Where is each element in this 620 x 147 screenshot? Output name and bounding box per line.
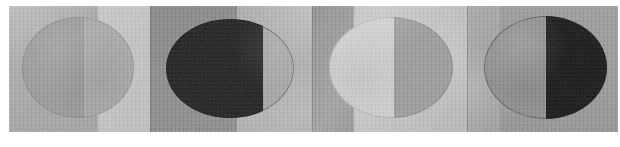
panel-1-disc-left-half <box>22 17 84 118</box>
panel-3-disc <box>329 17 453 118</box>
panel-1-disc <box>22 17 135 118</box>
panel-2-disc-right-half <box>263 19 294 119</box>
figure-root: A horizontal strip of four abutting phot… <box>0 0 620 147</box>
panel-1 <box>9 6 150 132</box>
panel-4 <box>467 6 618 132</box>
panel-3 <box>312 6 467 132</box>
panel-2-disc <box>166 19 294 119</box>
panel-4-disc-right-half <box>546 16 608 119</box>
panel-1-disc-right-half <box>84 17 135 118</box>
photo-strip <box>9 6 618 132</box>
figure-description: A horizontal strip of four abutting phot… <box>0 0 1 1</box>
panel-3-disc-left-half <box>329 17 393 118</box>
panel-3-disc-right-half <box>394 17 454 118</box>
panel-4-disc <box>484 16 608 119</box>
panel-2 <box>150 6 312 132</box>
panel-2-disc-left-half <box>166 19 263 119</box>
panel-4-disc-left-half <box>484 16 546 119</box>
